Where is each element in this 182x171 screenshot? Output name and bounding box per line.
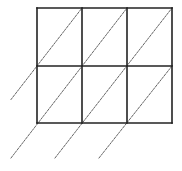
diagonal-line — [11, 8, 82, 100]
diagonal-line — [99, 66, 172, 158]
diagonal-line — [11, 8, 127, 158]
diagonal-line — [55, 8, 172, 158]
lattice-grid-diagram — [0, 0, 182, 171]
grid-lines — [37, 8, 172, 123]
dashed-diagonals — [11, 8, 172, 158]
